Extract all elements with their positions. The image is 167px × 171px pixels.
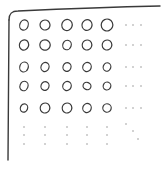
matrix-element-r2-c1 [18,39,30,52]
ellipsis-dot [132,66,134,68]
ellipsis-dot [125,44,127,46]
ellipsis-dot [140,66,142,68]
matrix-element-r5-c1 [19,103,29,113]
ellipsis-dot [66,143,68,145]
top-border-line [9,6,160,20]
ellipsis-dot [140,44,142,46]
matrix-element-r1-c1 [18,19,29,32]
ellipsis-dot [132,85,134,87]
matrix-element-r1-c5 [99,17,114,32]
ellipsis-dot [44,134,46,136]
matrix-element-r4-c5 [102,81,112,91]
matrix-element-r3-c4 [81,61,92,73]
ellipsis-dot [132,44,134,46]
ellipsis-dot [137,138,139,140]
left-border-line [8,20,9,160]
ellipsis-dot [140,85,142,87]
matrix-element-r2-c3 [61,39,72,51]
matrix-element-r2-c2 [38,38,51,51]
ellipsis-dot [86,126,88,128]
matrix-element-r2-c5 [101,39,113,52]
ellipsis-dot [23,134,25,136]
ellipsis-dot [140,107,142,109]
matrix-element-r2-c4 [81,39,93,52]
matrix-element-r4-c4 [82,81,92,91]
matrix-element-r1-c2 [39,19,52,32]
ellipsis-dot [106,143,108,145]
ellipsis-dot [23,126,25,128]
matrix-element-r3-c1 [18,61,29,73]
ellipsis-dot [106,126,108,128]
matrix-element-r4-c3 [61,80,72,92]
ellipsis-dot [44,143,46,145]
matrix-element-r5-c5 [102,103,113,114]
diagonal-ellipsis [125,123,139,140]
matrix-diagram [0,0,167,171]
ellipsis-dot [86,134,88,136]
ellipsis-dot [132,130,134,132]
ellipsis-dot [125,85,127,87]
matrix-element-r3-c3 [62,61,73,72]
ellipsis-dot [86,143,88,145]
matrix-element-r5-c3 [61,102,73,115]
row-ellipses [125,24,142,109]
ellipsis-dot [66,126,68,128]
matrix-elements [18,17,115,114]
ellipsis-dot [132,107,134,109]
matrix-element-r5-c4 [81,102,92,114]
ellipsis-dot [106,134,108,136]
ellipsis-dot [44,126,46,128]
ellipsis-dot [66,134,68,136]
ellipsis-dot [125,123,127,125]
matrix-element-r1-c4 [80,18,93,32]
matrix-element-r3-c2 [40,61,51,72]
matrix-element-r5-c2 [39,102,51,115]
matrix-element-r4-c2 [40,80,51,91]
ellipsis-dot [125,24,127,26]
matrix-element-r1-c3 [60,18,74,32]
ellipsis-dot [140,24,142,26]
matrix-element-r4-c1 [19,80,30,92]
column-ellipses [23,126,108,145]
ellipsis-dot [132,24,134,26]
matrix-element-r3-c5 [102,62,112,72]
ellipsis-dot [125,66,127,68]
ellipsis-dot [23,143,25,145]
ellipsis-dot [125,107,127,109]
